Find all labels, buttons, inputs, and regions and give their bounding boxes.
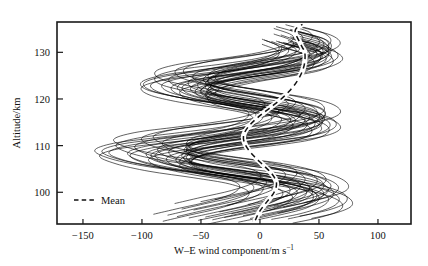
x-tick-label: 50	[314, 230, 325, 241]
y-tick-label: 100	[34, 187, 50, 198]
y-axis-title: Altitude/km	[11, 98, 22, 149]
x-tick-label: −100	[131, 230, 153, 241]
x-tick-label: 100	[370, 230, 386, 241]
x-axis-title: W–E wind component/m s−1	[174, 244, 294, 256]
x-tick-label: 0	[257, 230, 262, 241]
x-tick-label: −150	[72, 230, 94, 241]
wind-profile-chart: −150−100−50050100 100110120130 W–E wind …	[0, 0, 428, 266]
y-tick-label: 110	[35, 141, 50, 152]
y-tick-label: 130	[34, 47, 50, 58]
x-tick-label: −50	[193, 230, 209, 241]
legend-label-mean: Mean	[101, 195, 126, 206]
figure-container: −150−100−50050100 100110120130 W–E wind …	[0, 0, 428, 266]
y-tick-label: 120	[34, 94, 50, 105]
